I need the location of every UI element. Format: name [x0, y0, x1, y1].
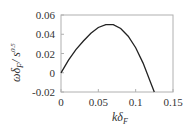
x-tick-label: 0 [58, 96, 64, 108]
x-tick-label: 0.05 [89, 96, 109, 108]
x-tick-label: 0.15 [163, 96, 183, 108]
y-axis-ticks: 0.060.040.020-0.02 [32, 9, 64, 98]
y-tick-label: -0.02 [32, 86, 55, 98]
x-axis-label: kδF [112, 110, 128, 126]
data-line [61, 25, 154, 92]
y-tick-label: 0.04 [36, 28, 56, 40]
x-tick-label: 0.1 [129, 96, 143, 108]
y-tick-label: 0 [50, 67, 56, 79]
y-tick-label: 0.06 [36, 9, 56, 21]
chart: 0.060.040.020-0.02 00.050.10.15 kδF ωδF/… [0, 0, 187, 129]
y-axis-label: ωδF/ s0.5 [9, 43, 25, 82]
y-tick-label: 0.02 [36, 48, 55, 60]
